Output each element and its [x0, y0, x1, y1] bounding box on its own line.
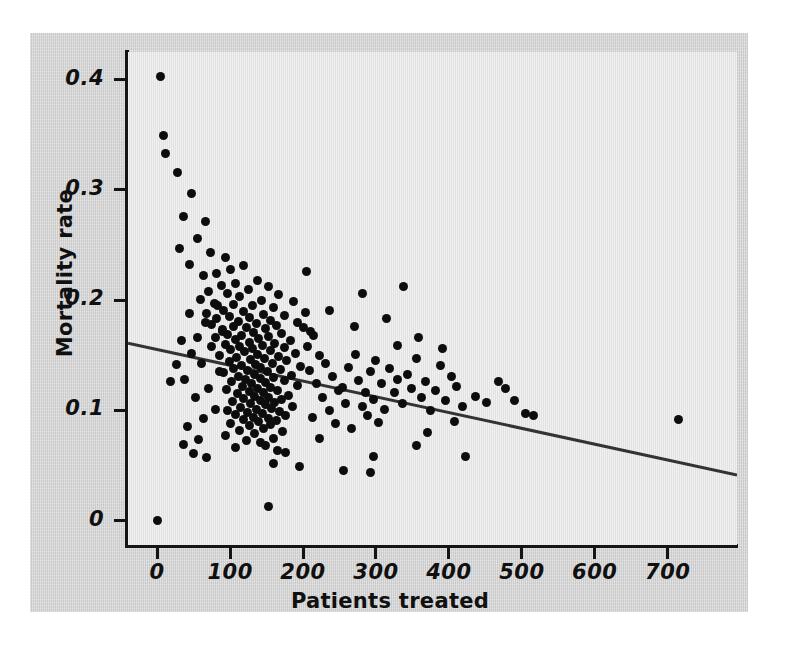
x-tick-label-300: 300: [340, 560, 412, 584]
data-point: [221, 253, 230, 262]
data-point: [222, 385, 231, 394]
x-tick-label-400: 400: [413, 560, 485, 584]
data-point: [289, 297, 298, 306]
data-point: [199, 414, 208, 423]
x-tick-600: [593, 548, 596, 559]
data-point: [414, 333, 423, 342]
data-point: [273, 386, 282, 395]
data-point: [175, 244, 184, 253]
data-point: [288, 402, 297, 411]
data-point: [308, 413, 317, 422]
data-point: [264, 282, 273, 291]
data-point: [193, 234, 202, 243]
x-tick-400: [447, 548, 450, 559]
data-point: [350, 322, 359, 331]
data-point: [172, 360, 181, 369]
data-point: [166, 377, 175, 386]
y-tick-0.3: [114, 188, 125, 191]
data-point: [674, 415, 683, 424]
x-tick-label-600: 600: [559, 560, 631, 584]
x-axis-title: Patients treated: [210, 589, 570, 613]
data-point: [194, 435, 203, 444]
y-tick-0.1: [114, 409, 125, 412]
data-point: [156, 72, 165, 81]
y-tick-label-0.3: 0.3: [58, 176, 104, 200]
data-point: [226, 419, 235, 428]
data-point: [257, 296, 266, 305]
data-point: [226, 265, 235, 274]
data-point: [278, 427, 287, 436]
data-point: [225, 312, 234, 321]
x-tick-100: [229, 548, 232, 559]
x-tick-300: [374, 548, 377, 559]
data-point: [197, 359, 206, 368]
data-point: [253, 276, 262, 285]
data-point: [269, 434, 278, 443]
data-point: [318, 393, 327, 402]
data-point: [269, 303, 278, 312]
data-point: [187, 189, 196, 198]
x-tick-500: [520, 548, 523, 559]
data-point: [218, 327, 227, 336]
data-point: [293, 381, 302, 390]
data-point: [366, 468, 375, 477]
data-point: [452, 382, 461, 391]
data-point: [299, 323, 308, 332]
data-point: [358, 402, 367, 411]
data-point: [204, 384, 213, 393]
y-axis-title: Mortality rate: [53, 178, 77, 368]
data-point: [252, 319, 261, 328]
data-point: [185, 309, 194, 318]
data-point: [296, 362, 305, 371]
y-tick-0: [114, 519, 125, 522]
data-point: [380, 405, 389, 414]
data-point: [193, 333, 202, 342]
data-point: [309, 331, 318, 340]
data-point: [325, 306, 334, 315]
data-point: [276, 365, 285, 374]
x-tick-label-200: 200: [267, 560, 339, 584]
data-point: [417, 393, 426, 402]
data-point: [390, 388, 399, 397]
data-point: [204, 287, 213, 296]
data-point: [280, 376, 289, 385]
data-point: [315, 351, 324, 360]
data-point: [191, 393, 200, 402]
y-tick-0.4: [114, 78, 125, 81]
regression-line: [128, 52, 737, 545]
data-point: [403, 370, 412, 379]
data-point: [321, 359, 330, 368]
data-point: [291, 349, 300, 358]
data-point: [339, 466, 348, 475]
data-point: [450, 417, 459, 426]
data-point: [221, 431, 230, 440]
plot-area: [128, 52, 737, 545]
data-point: [328, 372, 337, 381]
x-tick-label-700: 700: [632, 560, 704, 584]
x-tick-label-500: 500: [486, 560, 558, 584]
y-tick-label-0.4: 0.4: [58, 66, 104, 90]
y-tick-label-0.2: 0.2: [58, 286, 104, 310]
x-tick-label-0: 0: [121, 560, 193, 584]
data-point: [223, 289, 232, 298]
figure-panel: Mortality rate Patients treated 00.10.20…: [30, 33, 748, 612]
data-point: [447, 372, 456, 381]
data-point: [471, 392, 480, 401]
data-point: [338, 383, 347, 392]
y-tick-label-0: 0: [58, 507, 104, 531]
data-point: [244, 285, 253, 294]
data-point: [264, 502, 273, 511]
data-point: [303, 342, 312, 351]
data-point: [325, 406, 334, 415]
data-point: [211, 405, 220, 414]
x-tick-200: [302, 548, 305, 559]
data-point: [315, 434, 324, 443]
data-point: [385, 364, 394, 373]
data-point: [351, 350, 360, 359]
data-point: [281, 448, 290, 457]
data-point: [199, 271, 208, 280]
data-point: [173, 168, 182, 177]
data-point: [280, 311, 289, 320]
data-point: [347, 424, 356, 433]
data-point: [242, 436, 251, 445]
